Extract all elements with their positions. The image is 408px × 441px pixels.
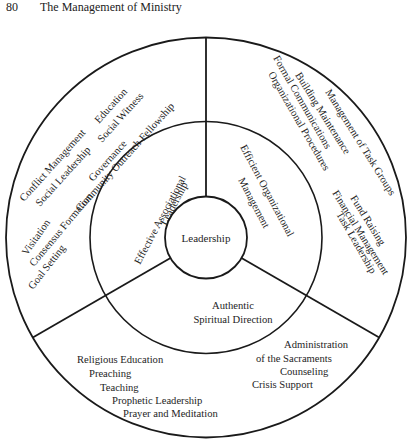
activity-item: Counseling [280,366,329,377]
core-label: Leadership [182,232,231,244]
activity-item: Prophetic Leadership [112,395,202,406]
activity-item: Administration [284,339,349,350]
spiritual-activities: Religious Education Preaching Teaching P… [77,339,349,419]
segment-spiritual-label: Authentic Spiritual Direction [193,300,273,325]
activity-item: of the Sacraments [256,353,332,364]
segment-label-line: Authentic [212,300,254,311]
activity-item: Teaching [100,382,139,393]
leadership-diagram: Leadership Effective Associational Leade… [0,0,408,441]
divider-right [242,258,380,338]
segment-label-line: Spiritual Direction [193,314,273,325]
organizational-activities: Formal Communications Building Maintenan… [266,54,398,277]
divider-left [33,258,171,338]
activity-item: Prayer and Meditation [123,408,218,419]
activity-item: Management of Task Groups [323,87,397,197]
activity-item: Crisis Support [252,379,313,390]
activity-item: Religious Education [77,354,164,365]
activity-item: Preaching [89,368,132,379]
associational-activities: Conflict Management Social Leadership Go… [17,86,176,292]
